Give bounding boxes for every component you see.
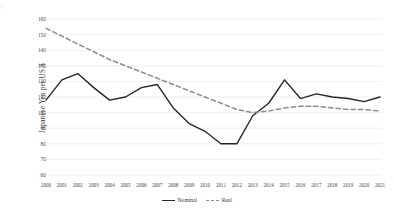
x-axis-tick-label: 2015 [279, 182, 289, 188]
x-axis-tick-label: 2012 [232, 182, 242, 188]
x-axis-tick-label: 2009 [184, 182, 194, 188]
x-axis-tick-labels: 2000200120022003200420052006200720082009… [0, 179, 394, 188]
x-axis-tick-label: 2014 [264, 182, 274, 188]
legend-label: Real [222, 197, 232, 203]
legend-swatch-icon [162, 200, 175, 201]
line-chart: Japanese Yen per US $ 160150140130120110… [0, 0, 394, 215]
series-layer [46, 28, 380, 143]
series-line-nominal [46, 74, 380, 144]
x-axis-tick-label: 2016 [295, 182, 305, 188]
x-axis-tick-label: 2007 [152, 182, 162, 188]
x-axis-tick-label: 2006 [136, 182, 146, 188]
x-axis-tick-label: 2008 [168, 182, 178, 188]
x-axis-tick-label: 2011 [216, 182, 226, 188]
x-axis-tick-label: 2018 [327, 182, 337, 188]
chart-legend: NominalReal [0, 197, 394, 203]
x-axis-tick-label: 2003 [89, 182, 99, 188]
x-axis-tick-label: 2000 [41, 182, 51, 188]
x-axis-tick-label: 2020 [359, 182, 369, 188]
corner-mark-icon [0, 4, 5, 9]
legend-swatch-icon [206, 200, 219, 201]
x-axis-tick-label: 2021 [375, 182, 385, 188]
x-axis-tick-label: 2017 [311, 182, 321, 188]
x-axis-tick-label: 2004 [105, 182, 115, 188]
x-axis-tick-label: 2002 [73, 182, 83, 188]
legend-label: Nominal [178, 197, 198, 203]
x-axis-tick-label: 2010 [200, 182, 210, 188]
x-axis-tick-label: 2001 [57, 182, 67, 188]
legend-item-real[interactable]: Real [206, 197, 232, 203]
series-line-real [46, 28, 380, 112]
x-axis-tick-label: 2013 [248, 182, 258, 188]
legend-item-nominal[interactable]: Nominal [162, 197, 197, 203]
x-axis-tick-label: 2019 [343, 182, 353, 188]
x-axis-tick-label: 2005 [120, 182, 130, 188]
